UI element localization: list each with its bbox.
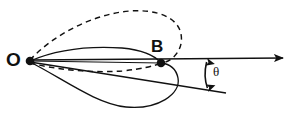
slanted-axis-ray — [30, 62, 226, 93]
upper-solid-lens-curve — [30, 47, 161, 63]
point-b-marker — [157, 59, 166, 68]
point-b-label: B — [151, 38, 163, 55]
lower-solid-loop-curve — [30, 62, 178, 107]
origin-label: O — [6, 50, 21, 69]
angle-arc-arrow — [205, 62, 207, 88]
angle-theta-label: θ — [213, 65, 219, 78]
diagram-vector-graphic — [0, 0, 296, 117]
diagram-canvas: O B θ — [0, 0, 296, 117]
lower-dashed-return-curve — [30, 63, 161, 72]
chord-origin-to-b — [30, 61, 161, 63]
origin-point-marker — [26, 57, 35, 66]
